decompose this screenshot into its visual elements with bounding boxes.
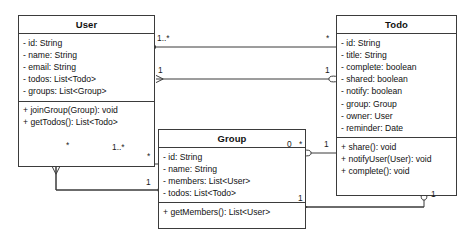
- multiplicity-group-todo-zero: 0: [287, 140, 292, 149]
- method: + joinGroup(Group): void: [19, 104, 154, 116]
- methods-user: + joinGroup(Group): void + getTodos(): L…: [19, 101, 154, 132]
- attribute: - id: String: [337, 37, 456, 49]
- attribute: - email: String: [19, 61, 154, 73]
- attributes-todo: - id: String - title: String - complete:…: [337, 34, 456, 137]
- method: + complete(): void: [337, 165, 456, 177]
- multiplicity-group-todo-star: *: [299, 140, 302, 149]
- multiplicity-user-todo-top-left: 1..*: [157, 34, 170, 43]
- multiplicity-user-todo-top-right: *: [326, 34, 329, 43]
- method: + getMembers(): List<User>: [159, 206, 305, 218]
- method: + share(): void: [337, 141, 456, 153]
- attribute: - group: Group: [337, 98, 456, 110]
- attribute: - id: String: [159, 151, 305, 163]
- multiplicity-user-group-diamond: 1..*: [112, 143, 125, 152]
- attribute: - todos: List<Todo>: [19, 73, 154, 85]
- uml-class-diagram: User right (arrow into User) --> Group l…: [0, 0, 466, 239]
- multiplicity-todo-user-mid-right: 1: [325, 66, 330, 75]
- multiplicity-todo-group-bottom: 1: [298, 194, 303, 203]
- class-title-group: Group: [159, 130, 305, 148]
- method: + getTodos(): List<Todo>: [19, 116, 154, 128]
- multiplicity-user-group-left: *: [66, 141, 69, 150]
- multiplicity-group-left-one: 1: [146, 178, 151, 187]
- multiplicity-todo-user-mid-left: 1: [158, 66, 163, 75]
- attribute: - members: List<User>: [159, 175, 305, 187]
- methods-group: + getMembers(): List<User>: [159, 202, 305, 221]
- attribute: - id: String: [19, 37, 154, 49]
- attribute: - reminder: Date: [337, 122, 456, 134]
- class-title-todo: Todo: [337, 16, 456, 34]
- multiplicity-group-todo-one: 1: [324, 140, 329, 149]
- methods-todo: + share(): void + notifyUser(User): void…: [337, 137, 456, 180]
- attribute: - notify: boolean: [337, 85, 456, 97]
- attribute: - owner: User: [337, 110, 456, 122]
- attribute: - todos: List<Todo>: [159, 187, 305, 199]
- attribute: - title: String: [337, 49, 456, 61]
- attribute: - groups: List<Group>: [19, 85, 154, 97]
- class-box-user[interactable]: User - id: String - name: String - email…: [18, 15, 155, 167]
- class-box-group[interactable]: Group - id: String - name: String - memb…: [158, 129, 306, 229]
- attribute: - shared: boolean: [337, 73, 456, 85]
- multiplicity-group-left-star: *: [147, 152, 150, 161]
- multiplicity-todo-group-bottom-right: 1: [431, 190, 436, 199]
- attribute: - complete: boolean: [337, 61, 456, 73]
- attribute: - name: String: [159, 163, 305, 175]
- attributes-group: - id: String - name: String - members: L…: [159, 148, 305, 202]
- method: + notifyUser(User): void: [337, 153, 456, 165]
- class-title-user: User: [19, 16, 154, 34]
- attribute: - name: String: [19, 49, 154, 61]
- attributes-user: - id: String - name: String - email: Str…: [19, 34, 154, 101]
- class-box-todo[interactable]: Todo - id: String - title: String - comp…: [336, 15, 457, 196]
